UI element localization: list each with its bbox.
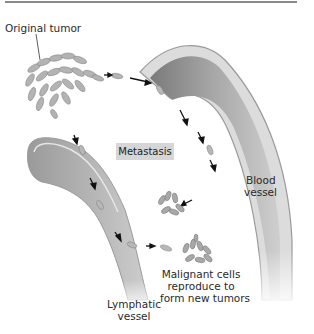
original-tumor-leader-line [36, 34, 40, 60]
label-blood-vessel-line1: Blood [246, 174, 276, 186]
label-lymphatic-line1: Lymphatic [104, 298, 164, 310]
lymphatic-vessel [28, 138, 160, 310]
label-original-tumor: Original tumor [5, 22, 81, 34]
title-badge: Metastasis [116, 143, 174, 160]
label-malignant-line1: Malignant cells [160, 268, 242, 280]
label-malignant-line3: form new tumors [160, 292, 242, 304]
label-lymphatic-line2: vessel [104, 310, 164, 322]
label-blood-vessel-line2: vessel [244, 186, 277, 198]
metastasis-illustration [0, 0, 314, 334]
new-tumor-cells [157, 190, 213, 263]
original-tumor-cells [24, 53, 123, 120]
label-malignant-line2: reproduce to [160, 280, 242, 292]
